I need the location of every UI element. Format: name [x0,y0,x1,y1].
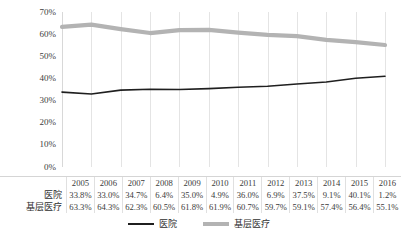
table-cell-value: 60.7% [234,201,262,213]
y-axis-tick-label: 50% [40,52,57,61]
y-axis-tick-label: 60% [40,30,57,39]
table-header-year: 2010 [206,177,234,190]
y-axis-tick-label: 0% [44,163,56,172]
table-header-year: 2014 [318,177,346,190]
plot-container: 0%10%20%30%40%50%60%70% [0,0,398,176]
chart-legend: 医院基层医疗 [0,215,398,233]
table-cell-value: 60.5% [150,201,178,213]
legend-label: 基层医疗 [234,220,270,229]
table-cell-value: 35.0% [178,189,206,201]
legend-swatch-icon [203,222,229,226]
table-row: 医院33.8%33.0%34.7%6.4%35.0%4.9%36.0%6.9%3… [0,189,401,201]
table-cell-value: 33.8% [67,189,95,201]
table-row-label: 基层医疗 [0,201,67,213]
gridline-vertical [385,12,386,167]
table-header-year: 2009 [178,177,206,190]
table-row: 基层医疗63.3%64.3%62.3%60.5%61.8%61.9%60.7%5… [0,201,401,213]
table-cell-value: 57.4% [318,201,346,213]
table-cell-value: 37.5% [290,189,318,201]
table-cell-value: 64.3% [94,201,122,213]
table-header-year: 2016 [373,177,400,190]
table-header-year: 2012 [262,177,290,190]
table-cell-value: 61.8% [178,201,206,213]
data-table-body: 2005200620072008200920102011201220132014… [0,177,401,214]
series-line-hospital [62,76,385,94]
data-table: 2005200620072008200920102011201220132014… [0,176,401,213]
table-cell-value: 56.4% [346,201,374,213]
table-header-year: 2006 [94,177,122,190]
table-cell-value: 33.0% [94,189,122,201]
legend-item[interactable]: 基层医疗 [203,220,270,229]
table-cell-value: 59.1% [290,201,318,213]
legend-label: 医院 [159,220,177,229]
legend-item[interactable]: 医院 [128,220,177,229]
table-cell-value: 4.9% [206,189,234,201]
table-header-year: 2007 [122,177,150,190]
table-cell-value: 62.3% [122,201,150,213]
table-header-year: 2005 [67,177,95,190]
y-axis-tick-label: 70% [40,8,57,17]
table-cell-value: 9.1% [318,189,346,201]
table-header-year: 2008 [150,177,178,190]
y-axis: 0%10%20%30%40%50%60%70% [0,0,60,176]
table-cell-value: 34.7% [122,189,150,201]
table-cell-value: 61.9% [206,201,234,213]
data-table-container: 2005200620072008200920102011201220132014… [0,176,398,212]
table-header-year: 2013 [290,177,318,190]
table-cell-value: 55.1% [373,201,400,213]
y-axis-tick-label: 30% [40,96,57,105]
table-cell-value: 63.3% [67,201,95,213]
y-axis-tick-label: 10% [40,140,57,149]
plot-area [62,12,385,167]
table-row-label: 医院 [0,189,67,201]
legend-swatch-icon [128,223,154,225]
table-header-year: 2011 [234,177,262,190]
series-line-primary-care [62,25,385,45]
table-cell-value: 59.7% [262,201,290,213]
table-cell-value: 40.1% [346,189,374,201]
y-axis-tick-label: 40% [40,74,57,83]
table-cell-value: 1.2% [373,189,400,201]
table-cell-value: 6.9% [262,189,290,201]
table-header-year: 2015 [346,177,374,190]
table-cell-value: 6.4% [150,189,178,201]
table-row-header: 2005200620072008200920102011201220132014… [0,177,401,190]
series-layer [62,12,385,167]
table-cell-value: 36.0% [234,189,262,201]
table-corner-cell [0,177,67,190]
y-axis-tick-label: 20% [40,118,57,127]
